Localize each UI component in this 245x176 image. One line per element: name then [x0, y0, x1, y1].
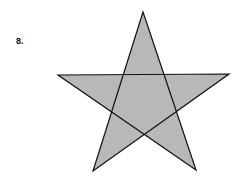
star-figure	[0, 0, 245, 176]
star-shape	[58, 12, 229, 171]
